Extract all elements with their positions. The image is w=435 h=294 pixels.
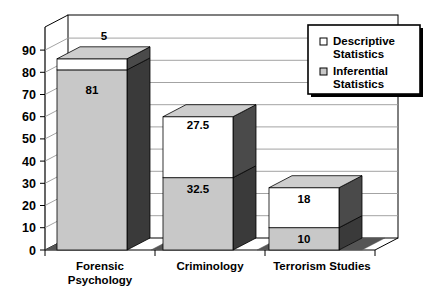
category-label-criminology: Criminology (176, 260, 244, 272)
legend-label-descriptive-line1: Descriptive (333, 35, 395, 47)
x-axis-labels: Forensic Psychology Criminology Terroris… (68, 260, 371, 286)
category-label-forensic-line2: Psychology (68, 274, 133, 286)
bar2-inferential-value: 32.5 (187, 183, 210, 195)
legend-swatch-inferential (320, 68, 327, 75)
legend-swatch-descriptive (320, 38, 327, 45)
legend-label-inferential-line1: Inferential (333, 65, 388, 77)
bar3-inferential-value: 10 (298, 233, 311, 245)
chart-container: 90 80 70 60 50 40 30 20 10 0 5 (0, 0, 435, 294)
ytick-label-20: 20 (22, 199, 36, 213)
ytick-label-80: 80 (22, 66, 36, 80)
ytick-label-40: 40 (22, 155, 36, 169)
bar-floor-shadow-3 (257, 244, 269, 250)
bar-group-forensic-psychology[interactable]: 5 81 (45, 30, 150, 250)
ytick-label-0: 0 (29, 244, 36, 258)
stacked-3d-bar-chart: 90 80 70 60 50 40 30 20 10 0 5 (0, 0, 435, 294)
bar2-descriptive-side (233, 105, 256, 178)
bar-floor-shadow-1 (45, 244, 57, 250)
legend-label-descriptive-line2: Statistics (333, 48, 384, 60)
ytick-label-60: 60 (22, 110, 36, 124)
bar2-descriptive-value: 27.5 (187, 119, 210, 131)
bar1-inferential-value: 81 (86, 84, 99, 96)
ytick-label-10: 10 (22, 221, 36, 235)
bar3-descriptive-value: 18 (298, 193, 311, 205)
bar1-inferential-front[interactable] (57, 70, 127, 250)
bar-group-criminology[interactable]: 27.5 32.5 (151, 105, 256, 250)
ytick-label-70: 70 (22, 88, 36, 102)
category-label-terrorism-studies: Terrorism Studies (273, 260, 371, 272)
y-axis: 90 80 70 60 50 40 30 20 10 0 (22, 44, 45, 258)
ytick-label-50: 50 (22, 132, 36, 146)
legend[interactable]: Descriptive Statistics Inferential Stati… (308, 25, 423, 97)
bar1-descriptive-front[interactable] (57, 59, 127, 70)
bar-floor-shadow-2 (151, 244, 163, 250)
category-label-forensic-line1: Forensic (76, 260, 125, 272)
x-axis-ticks (45, 250, 375, 256)
grid-riser-90 (45, 38, 68, 50)
legend-label-inferential-line2: Statistics (333, 78, 384, 90)
bar1-inferential-side (127, 58, 150, 250)
ytick-label-30: 30 (22, 177, 36, 191)
bar2-inferential-side (233, 166, 256, 250)
bar1-descriptive-value: 5 (101, 30, 108, 42)
depth-edge-top-left (45, 15, 68, 27)
ytick-label-90: 90 (22, 44, 36, 58)
